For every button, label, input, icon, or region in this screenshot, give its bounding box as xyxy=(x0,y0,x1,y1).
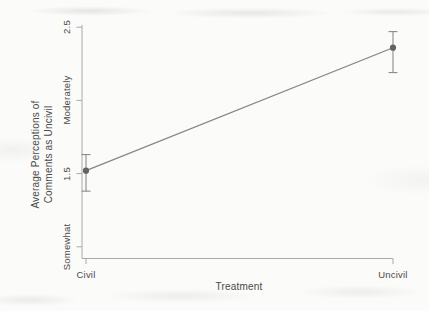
y-tick-label-somewhat: Somewhat xyxy=(61,224,72,270)
y-axis-title: Average Perceptions of Comments as Unciv… xyxy=(30,70,55,240)
x-tick-label-uncivil: Uncivil xyxy=(378,269,407,280)
y-axis-title-line-1: Average Perceptions of xyxy=(30,70,43,240)
x-tick-label-civil: Civil xyxy=(77,269,96,280)
figure: Somewhat 1.5 Moderately 2.5 Civil Uncivi… xyxy=(0,0,429,311)
series-line xyxy=(86,48,393,171)
y-tick-label-moderately: Moderately xyxy=(61,76,72,125)
data-point-civil xyxy=(83,168,89,174)
y-tick-label-1-5: 1.5 xyxy=(61,167,72,181)
y-tick-label-2-5: 2.5 xyxy=(61,20,72,34)
data-point-uncivil xyxy=(390,45,396,51)
x-axis-title: Treatment xyxy=(215,281,262,292)
y-axis-title-line-2: Comments as Uncivil xyxy=(42,70,55,240)
